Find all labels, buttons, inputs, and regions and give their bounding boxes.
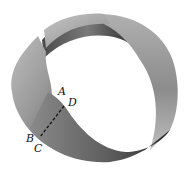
label-c: C — [34, 143, 42, 154]
label-d: D — [68, 97, 77, 108]
label-b: B — [26, 133, 34, 144]
strip-bottom-band — [30, 92, 170, 162]
label-a: A — [58, 86, 66, 97]
mobius-strip-figure — [0, 0, 187, 171]
